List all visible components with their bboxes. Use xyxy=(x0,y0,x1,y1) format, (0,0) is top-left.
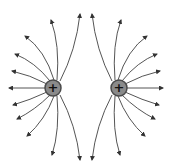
field-line-right-8 xyxy=(118,96,145,136)
charges: + + xyxy=(45,80,127,96)
field-line-left-9 xyxy=(52,96,58,155)
field-line-right-7 xyxy=(122,95,155,119)
field-line-left-1 xyxy=(51,20,58,80)
field-line-right-10 xyxy=(92,95,112,160)
field-line-left-4 xyxy=(12,71,47,84)
field-line-right-0 xyxy=(92,14,112,81)
field-line-right-9 xyxy=(114,96,120,155)
field-line-left-10 xyxy=(60,95,80,160)
field-line-left-0 xyxy=(60,14,80,81)
field-line-left-8 xyxy=(27,96,54,136)
field-line-right-4 xyxy=(125,71,160,84)
field-lines xyxy=(9,14,163,160)
field-line-right-2 xyxy=(118,36,147,80)
charge-left: + xyxy=(45,80,61,96)
charge-right-sign: + xyxy=(114,80,125,95)
field-line-left-7 xyxy=(17,95,50,119)
field-diagram: + + xyxy=(0,0,171,168)
charge-left-sign: + xyxy=(48,80,59,95)
field-line-right-1 xyxy=(114,20,121,80)
charge-right: + xyxy=(111,80,127,96)
field-line-left-2 xyxy=(25,36,54,80)
